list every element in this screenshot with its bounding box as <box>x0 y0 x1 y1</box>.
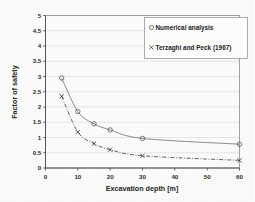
x-tick-label-5: 50 <box>204 173 211 180</box>
x-axis-title: Excavation depth [m] <box>106 184 179 193</box>
y-tick-label-8: 4 <box>38 42 42 49</box>
x-tick-label-1: 10 <box>74 173 81 180</box>
y-tick-label-3: 1.5 <box>33 118 42 125</box>
y-tick-label-0: 0 <box>38 164 42 171</box>
legend-entry-numerical-analysis: Numerical analysis <box>149 24 213 32</box>
y-tick-label-5: 2.5 <box>33 88 42 95</box>
factor-of-safety-line-chart: 00.511.522.533.544.55 0102030405060 Nume… <box>0 0 255 202</box>
legend-entry-terzaghi-peck: Terzaghi and Peck (1967) <box>149 44 231 52</box>
y-tick-label-2: 1 <box>38 134 42 141</box>
chart-figure: 00.511.522.533.544.55 0102030405060 Nume… <box>0 0 255 202</box>
x-tick-label-4: 40 <box>171 173 178 180</box>
legend-label-0: Numerical analysis <box>156 24 214 32</box>
y-axis-title: Factor of safety <box>10 65 19 119</box>
x-tick-label-2: 20 <box>107 173 114 180</box>
x-tick-label-3: 30 <box>139 173 146 180</box>
y-tick-label-10: 5 <box>38 12 42 19</box>
y-tick-label-7: 3.5 <box>33 57 42 64</box>
y-tick-label-4: 2 <box>38 103 42 110</box>
y-tick-label-6: 3 <box>38 73 42 80</box>
x-tick-label-0: 0 <box>44 173 48 180</box>
y-tick-label-9: 4.5 <box>33 27 42 34</box>
legend: Numerical analysis Terzaghi and Peck (19… <box>145 18 248 59</box>
y-tick-label-1: 0.5 <box>33 149 42 156</box>
legend-label-1: Terzaghi and Peck (1967) <box>156 44 232 52</box>
x-tick-label-6: 60 <box>236 173 243 180</box>
